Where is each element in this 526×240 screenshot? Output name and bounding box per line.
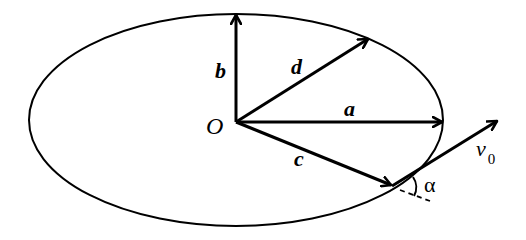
label-c: c bbox=[294, 148, 304, 170]
ellipse-diagram bbox=[0, 0, 526, 240]
label-d: d bbox=[291, 56, 302, 78]
label-origin: O bbox=[206, 114, 223, 138]
label-a: a bbox=[344, 98, 355, 120]
label-b: b bbox=[215, 60, 226, 82]
angle-arc bbox=[413, 177, 416, 196]
label-v-subscript: 0 bbox=[488, 151, 496, 167]
label-v: v bbox=[476, 136, 486, 161]
vector-c bbox=[236, 122, 391, 185]
label-v0: v0 bbox=[476, 138, 493, 160]
label-alpha: α bbox=[424, 174, 436, 196]
